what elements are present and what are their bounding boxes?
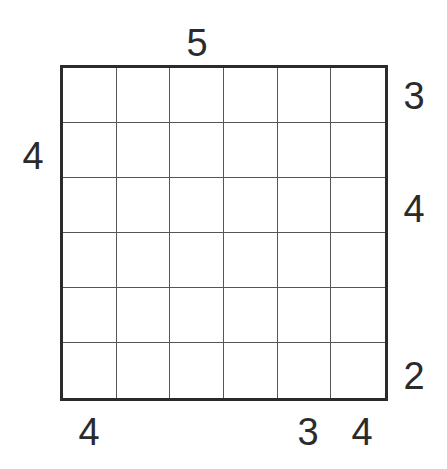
grid-cell-r3-c1[interactable] <box>63 178 117 233</box>
puzzle-grid <box>60 65 388 401</box>
right-clue-row-1: 3 <box>394 77 434 115</box>
grid-cell-r5-c2[interactable] <box>117 288 171 343</box>
grid-cell-r6-c4[interactable] <box>224 343 278 398</box>
grid-cell-r4-c5[interactable] <box>278 233 332 288</box>
grid-cell-r4-c3[interactable] <box>170 233 224 288</box>
grid-cell-r5-c4[interactable] <box>224 288 278 343</box>
grid-cell-r2-c4[interactable] <box>224 123 278 178</box>
grid-cell-r5-c5[interactable] <box>278 288 332 343</box>
bottom-clue-col-6: 4 <box>342 413 382 451</box>
grid-cell-r1-c4[interactable] <box>224 68 278 123</box>
grid-cell-r2-c6[interactable] <box>331 123 385 178</box>
grid-cell-r2-c5[interactable] <box>278 123 332 178</box>
grid-cell-r3-c5[interactable] <box>278 178 332 233</box>
right-clue-row-3: 4 <box>394 190 434 228</box>
grid-cell-r4-c6[interactable] <box>331 233 385 288</box>
grid-cell-r3-c4[interactable] <box>224 178 278 233</box>
grid-cell-r1-c6[interactable] <box>331 68 385 123</box>
grid-cell-r1-c5[interactable] <box>278 68 332 123</box>
grid-cell-r6-c3[interactable] <box>170 343 224 398</box>
grid-cell-r1-c2[interactable] <box>117 68 171 123</box>
grid-cell-r4-c2[interactable] <box>117 233 171 288</box>
bottom-clue-col-1: 4 <box>69 413 109 451</box>
grid-cell-r5-c6[interactable] <box>331 288 385 343</box>
grid-cell-r2-c2[interactable] <box>117 123 171 178</box>
grid-cell-r5-c1[interactable] <box>63 288 117 343</box>
grid-cell-r6-c5[interactable] <box>278 343 332 398</box>
grid-cell-r2-c3[interactable] <box>170 123 224 178</box>
grid-cell-r6-c1[interactable] <box>63 343 117 398</box>
bottom-clue-col-5: 3 <box>288 413 328 451</box>
grid-cell-r1-c1[interactable] <box>63 68 117 123</box>
grid-cell-r5-c3[interactable] <box>170 288 224 343</box>
grid-cell-r4-c4[interactable] <box>224 233 278 288</box>
top-clue-col-3: 5 <box>177 24 217 62</box>
left-clue-row-2: 4 <box>13 137 53 175</box>
grid-cell-r1-c3[interactable] <box>170 68 224 123</box>
grid-cell-r3-c6[interactable] <box>331 178 385 233</box>
right-clue-row-6: 2 <box>394 357 434 395</box>
grid-cell-r6-c2[interactable] <box>117 343 171 398</box>
grid-cell-r3-c3[interactable] <box>170 178 224 233</box>
grid-cell-r4-c1[interactable] <box>63 233 117 288</box>
grid-cell-r2-c1[interactable] <box>63 123 117 178</box>
grid-cell-r6-c6[interactable] <box>331 343 385 398</box>
grid-cell-r3-c2[interactable] <box>117 178 171 233</box>
